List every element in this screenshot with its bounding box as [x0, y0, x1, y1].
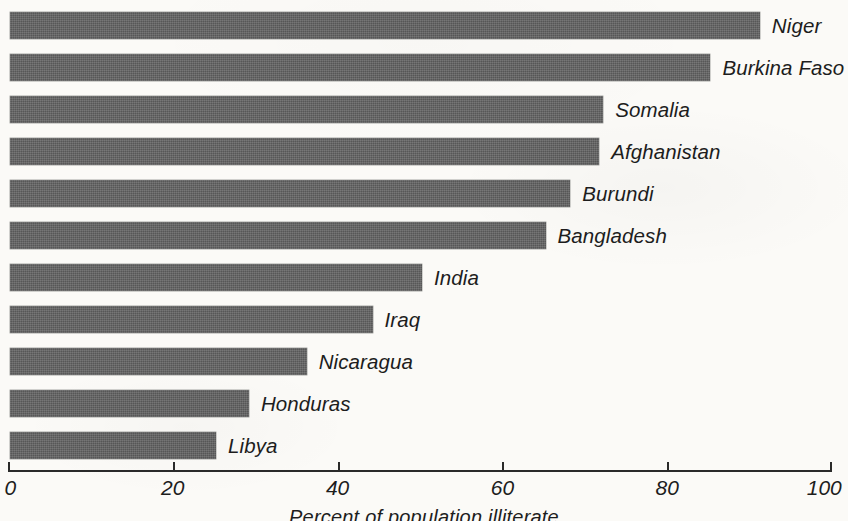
- bar: [10, 390, 249, 417]
- bar-label: India: [434, 265, 479, 289]
- x-axis: 020406080100 Percent of population illit…: [0, 462, 848, 521]
- bar: [10, 138, 599, 165]
- bar: [10, 306, 373, 333]
- bar-label: Nicaragua: [319, 349, 413, 373]
- plot-area: NigerBurkina FasoSomaliaAfghanistanBurun…: [0, 0, 848, 470]
- bar-label: Niger: [772, 13, 822, 37]
- bar: [10, 222, 546, 249]
- x-axis-line: [8, 470, 832, 472]
- x-axis-tick-label: 0: [4, 476, 16, 500]
- bar-label: Somalia: [615, 97, 690, 121]
- x-axis-tick: [338, 462, 340, 471]
- bar-label: Iraq: [385, 307, 421, 331]
- x-axis-tick-label: 20: [161, 476, 184, 500]
- bar: [10, 180, 570, 207]
- x-axis-tick: [8, 462, 10, 471]
- x-axis-tick: [173, 462, 175, 471]
- bar-label: Burkina Faso: [722, 55, 844, 79]
- bar-label: Bangladesh: [558, 223, 667, 247]
- illiteracy-bar-chart-figure: NigerBurkina FasoSomaliaAfghanistanBurun…: [0, 0, 848, 521]
- bar: [10, 432, 216, 459]
- x-axis-tick: [830, 462, 832, 471]
- bar-label: Honduras: [261, 391, 351, 415]
- bar: [10, 96, 603, 123]
- x-axis-tick-label: 40: [326, 476, 349, 500]
- x-axis-title: Percent of population illiterate: [0, 506, 848, 521]
- bar: [10, 54, 710, 81]
- bar-label: Libya: [228, 433, 278, 457]
- x-axis-tick: [667, 462, 669, 471]
- x-axis-tick: [502, 462, 504, 471]
- bar-label: Burundi: [582, 181, 653, 205]
- x-axis-tick-label: 80: [656, 476, 679, 500]
- bar: [10, 12, 760, 39]
- x-axis-tick-label: 60: [491, 476, 514, 500]
- bar: [10, 264, 422, 291]
- bar: [10, 348, 307, 375]
- bar-label: Afghanistan: [611, 139, 720, 163]
- x-axis-tick-label: 100: [807, 476, 842, 500]
